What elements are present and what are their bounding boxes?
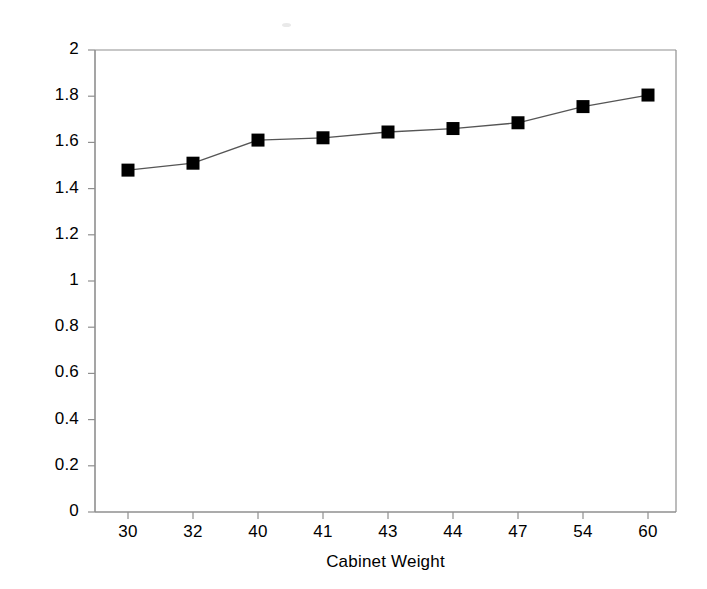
- axis-ticks: [88, 50, 648, 519]
- data-point-marker: [382, 126, 395, 139]
- data-point-marker: [122, 164, 135, 177]
- data-point-marker: [642, 89, 655, 102]
- data-point-marker: [187, 157, 200, 170]
- plot-frame: [95, 50, 676, 512]
- data-point-marker: [252, 134, 265, 147]
- data-point-marker: [577, 100, 590, 113]
- data-point-marker: [317, 131, 330, 144]
- data-point-marker: [447, 122, 460, 135]
- plot-area: [0, 0, 707, 589]
- chart-figure: Log(Frequency) Cabinet Weight 00.20.40.6…: [0, 0, 707, 589]
- data-point-marker: [512, 116, 525, 129]
- data-series: [122, 89, 655, 177]
